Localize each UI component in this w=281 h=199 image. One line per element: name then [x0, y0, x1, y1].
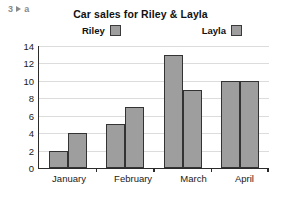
- bar-layla-march: [183, 90, 202, 168]
- chart-title: Car sales for Riley & Layla: [0, 8, 281, 20]
- bar-layla-april: [240, 81, 259, 168]
- bar-group: [221, 46, 259, 168]
- legend-label-layla: Layla: [202, 25, 226, 36]
- legend-entry-riley: Riley: [82, 25, 121, 36]
- bar-layla-february: [125, 107, 144, 168]
- x-axis-tick: [153, 168, 155, 172]
- y-tick-label: 2: [29, 145, 34, 156]
- legend-swatch-layla: [231, 25, 242, 36]
- bar-riley-february: [106, 124, 125, 168]
- bar-riley-january: [49, 151, 68, 168]
- bar-group: [49, 46, 87, 168]
- plot-area: [38, 46, 269, 169]
- bar-riley-april: [221, 81, 240, 168]
- chart-legend: Riley Layla: [82, 25, 242, 36]
- y-tick-label: 12: [23, 58, 34, 69]
- bar-group: [106, 46, 144, 168]
- y-tick-label: 10: [23, 75, 34, 86]
- y-tick-label: 6: [29, 110, 34, 121]
- legend-label-riley: Riley: [82, 25, 105, 36]
- legend-entry-layla: Layla: [202, 25, 242, 36]
- bar-groups: [39, 46, 269, 168]
- y-tick-label: 14: [23, 41, 34, 52]
- x-tick-label: January: [52, 173, 86, 184]
- legend-swatch-riley: [110, 25, 121, 36]
- y-tick-label: 0: [29, 163, 34, 174]
- x-tick-label: February: [114, 173, 152, 184]
- y-tick-label: 4: [29, 128, 34, 139]
- x-axis-tick: [267, 168, 269, 172]
- y-tick-label: 8: [29, 93, 34, 104]
- bar-chart-figure: 3 a Car sales for Riley & Layla Riley La…: [0, 0, 281, 199]
- x-tick-label: April: [235, 173, 254, 184]
- x-axis-tick: [211, 168, 213, 172]
- bar-riley-march: [164, 55, 183, 168]
- bar-group: [164, 46, 202, 168]
- y-axis-tick-labels: 02468101214: [12, 46, 34, 168]
- plot-wrapper: 02468101214 JanuaryFebruaryMarchApril: [38, 46, 268, 168]
- x-axis-tick-labels: JanuaryFebruaryMarchApril: [38, 173, 268, 184]
- x-tick-label: March: [180, 173, 206, 184]
- bar-layla-january: [68, 133, 87, 168]
- x-axis-tick: [96, 168, 98, 172]
